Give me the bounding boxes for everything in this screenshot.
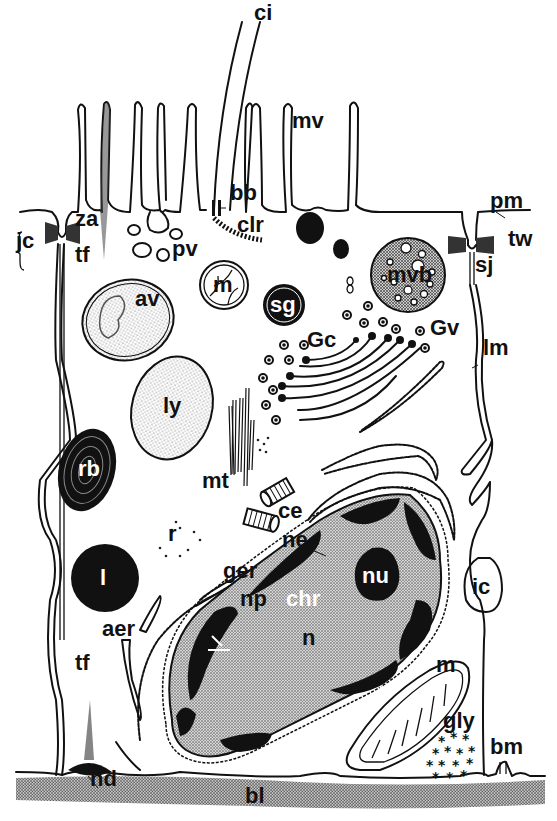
label-av: av [135, 286, 160, 311]
label-ger: ger [223, 558, 258, 583]
label-pm: pm [490, 188, 523, 213]
label-l: l [100, 565, 106, 590]
lateral-membrane-left [39, 244, 70, 775]
label-Gc: Gc [307, 327, 336, 352]
label-ic: ic [472, 574, 490, 599]
label-aer: aer [102, 616, 135, 641]
label-nu: nu [362, 563, 389, 588]
label-bb: bb [230, 180, 257, 205]
label-n: n [302, 625, 315, 650]
label-chr: chr [286, 586, 321, 611]
label-tf2: tf [75, 650, 90, 675]
label-r: r [168, 521, 177, 546]
label-rb: rb [78, 456, 100, 481]
label-pv: pv [172, 236, 198, 261]
junctional-complex-left [18, 222, 80, 640]
svg-text:*: * [432, 769, 440, 785]
label-hd: hd [90, 766, 117, 791]
microtubules [229, 388, 254, 486]
label-tw: tw [508, 226, 533, 251]
cell-diagram: *** **** **** *** ci mv bb clr pm za jc … [0, 0, 557, 821]
label-mvb: mvb [387, 262, 432, 287]
label-np: np [240, 586, 267, 611]
svg-text:*: * [446, 769, 454, 785]
label-ly: ly [163, 393, 182, 418]
label-sj: sj [475, 252, 493, 277]
label-Gv: Gv [430, 315, 460, 340]
label-clr: clr [237, 212, 264, 237]
label-ce: ce [278, 498, 302, 523]
label-jc: jc [15, 228, 34, 253]
label-gly: gly [443, 708, 476, 733]
label-sg: sg [270, 292, 296, 317]
label-tf: tf [75, 242, 90, 267]
label-lm: lm [483, 335, 509, 360]
label-ci: ci [254, 0, 272, 25]
label-m2: m [436, 652, 456, 677]
cell-diagram-svg: *** **** **** *** ci mv bb clr pm za jc … [0, 0, 557, 821]
secretory-granule-apical [296, 212, 324, 244]
label-m: m [213, 272, 233, 297]
apical-plasma-membrane [20, 102, 206, 232]
label-ne: ne [282, 527, 308, 552]
label-bl: bl [245, 783, 265, 808]
label-mt: mt [202, 468, 230, 493]
label-bm: bm [490, 734, 523, 759]
label-za: za [75, 206, 99, 231]
autophagic-vacuole [73, 269, 183, 370]
label-mv: mv [292, 108, 325, 133]
svg-text:*: * [460, 767, 468, 783]
